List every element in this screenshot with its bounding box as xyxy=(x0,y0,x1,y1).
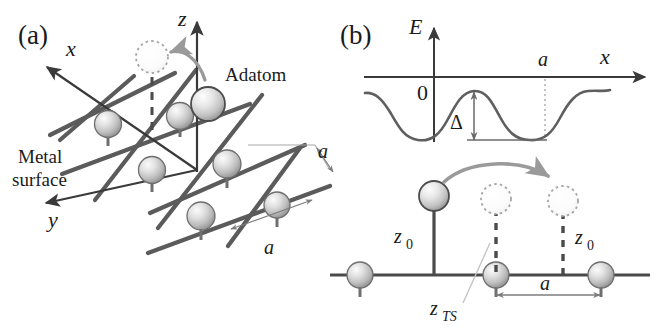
potential-energy-curve xyxy=(365,90,610,140)
side-adatom-sphere xyxy=(419,181,449,211)
surface-atom xyxy=(187,202,215,240)
transition-state-label-group: z TS xyxy=(429,297,457,324)
height-label-left-subscript: 0 xyxy=(406,237,413,252)
adatom-label: Adatom xyxy=(225,64,286,85)
energy-origin-label: 0 xyxy=(417,80,428,105)
side-lattice-spacing-label: a xyxy=(540,272,550,294)
transition-state-ghost-group xyxy=(481,184,511,272)
destination-ghost-circle xyxy=(548,186,578,216)
height-label-right-subscript: 0 xyxy=(587,238,594,253)
lattice-rod xyxy=(148,186,330,253)
height-label-right-group: z 0 xyxy=(574,226,594,253)
adatom-ghost-circle xyxy=(136,41,168,73)
panel-a: x y z xyxy=(12,6,333,258)
side-view: z 0 z 0 xyxy=(330,164,650,324)
height-label-right: z xyxy=(574,226,583,248)
transition-state-ghost-circle xyxy=(481,184,511,214)
transition-state-label: z xyxy=(429,297,438,319)
y-axis-label: y xyxy=(46,207,58,232)
adatom-sphere-group xyxy=(191,87,225,121)
panel-b: (b) E x 0 a xyxy=(330,14,650,324)
energy-period-label: a xyxy=(538,48,548,70)
energy-plot: E x 0 a Δ xyxy=(364,14,645,142)
surface-atom xyxy=(139,157,166,193)
figure-root: x y z xyxy=(0,0,660,328)
z-axis-label: z xyxy=(177,6,187,31)
hop-arrow xyxy=(171,51,205,80)
transition-state-label-subscript: TS xyxy=(442,309,457,324)
energy-axis-label: E xyxy=(408,14,423,39)
side-surface-atoms xyxy=(347,262,614,297)
adatom-sphere xyxy=(191,87,225,121)
lattice-spacing-measure-upper: a xyxy=(317,140,333,172)
surface-atom xyxy=(347,262,373,297)
metal-surface-label-line1: Metal xyxy=(18,146,62,167)
barrier-label: Δ xyxy=(450,111,463,133)
panel-b-tag: (b) xyxy=(340,20,371,50)
height-label-left: z xyxy=(393,225,402,247)
figure-canvas: x y z xyxy=(0,0,660,328)
surface-atom xyxy=(95,111,122,147)
side-hop-arrow xyxy=(444,164,548,182)
x-axis-label: x xyxy=(65,36,76,61)
surface-atom xyxy=(588,262,614,297)
height-label-left-group: z 0 xyxy=(393,225,413,252)
y-axis xyxy=(46,170,197,203)
lattice-spacing-label-lower: a xyxy=(264,236,274,258)
side-adatom-group xyxy=(419,181,449,275)
lattice-spacing-label-upper: a xyxy=(318,140,328,162)
destination-ghost-group xyxy=(548,186,578,275)
metal-surface-label-line2: surface xyxy=(12,169,67,190)
energy-x-axis-label: x xyxy=(599,44,610,69)
panel-a-tag: (a) xyxy=(18,20,48,50)
